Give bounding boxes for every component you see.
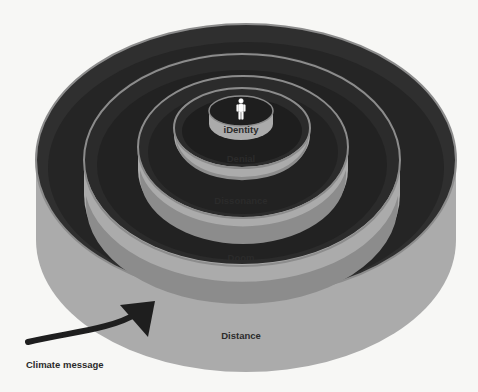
- label-identity: iDentity: [224, 124, 260, 135]
- label-denial: Denial: [227, 153, 256, 164]
- label-dissonance: Dissonance: [214, 195, 267, 206]
- nested-cylinder-diagram: iDentity Denial Dissonance Doom Distance…: [0, 0, 478, 392]
- label-doom: Doom: [228, 252, 255, 263]
- label-distance: Distance: [221, 330, 261, 341]
- climate-message-label: Climate message: [26, 359, 104, 370]
